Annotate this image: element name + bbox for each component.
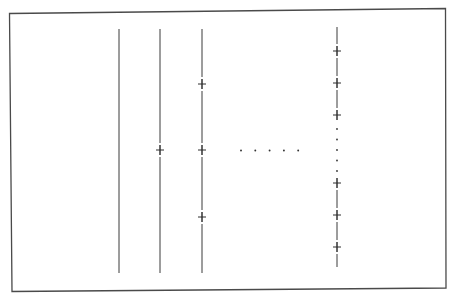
horizontal-ellipsis-dot (240, 150, 242, 152)
cross-marker (333, 110, 341, 120)
vertical-ellipsis-dot (336, 149, 338, 151)
horizontal-ellipsis-dot (283, 150, 285, 152)
cross-marker (333, 78, 341, 88)
vertical-line-n (333, 27, 341, 267)
lines-group (119, 27, 341, 273)
cross-marker (333, 242, 341, 252)
cross-marker (198, 79, 206, 89)
vertical-line-2 (156, 29, 164, 273)
vertical-ellipsis-dot (336, 139, 338, 141)
diagram-canvas (0, 0, 456, 295)
ellipsis-dots-group (240, 150, 299, 152)
diagram-frame (10, 9, 447, 292)
horizontal-ellipsis-dot (254, 150, 256, 152)
cross-marker (198, 145, 206, 155)
vertical-ellipsis-dot (336, 160, 338, 162)
vertical-ellipsis-dot (336, 128, 338, 130)
vertical-line-3 (198, 29, 206, 273)
horizontal-ellipsis-dot (297, 150, 299, 152)
cross-marker (333, 46, 341, 56)
cross-marker (333, 178, 341, 188)
horizontal-ellipsis-dot (269, 150, 271, 152)
cross-marker (198, 212, 206, 222)
vertical-ellipsis-dot (336, 170, 338, 172)
cross-marker (333, 210, 341, 220)
cross-marker (156, 145, 164, 155)
